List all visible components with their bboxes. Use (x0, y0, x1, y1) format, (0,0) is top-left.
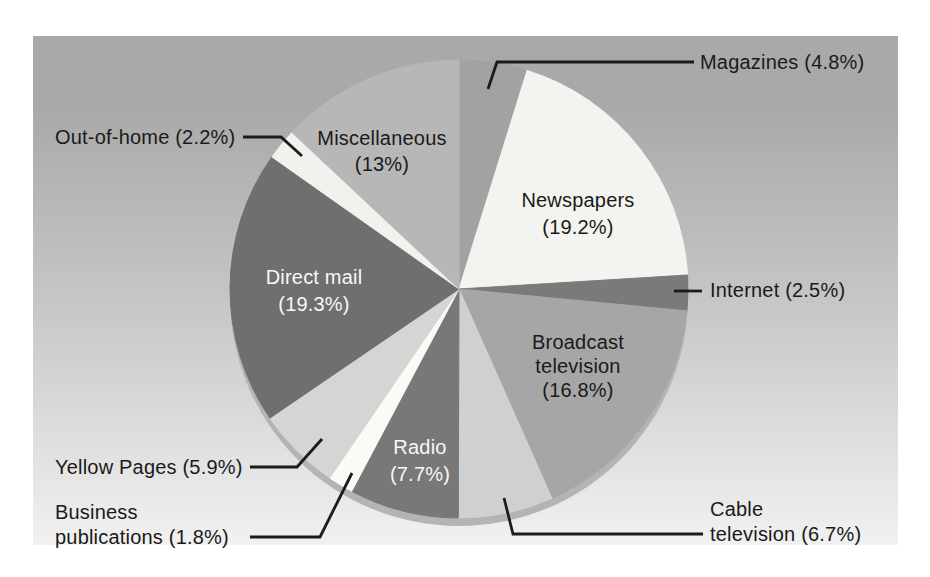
pie-chart-svg (0, 0, 930, 577)
pie-chart-figure: Magazines (4.8%)Newspapers(19.2%)Interne… (0, 0, 930, 577)
